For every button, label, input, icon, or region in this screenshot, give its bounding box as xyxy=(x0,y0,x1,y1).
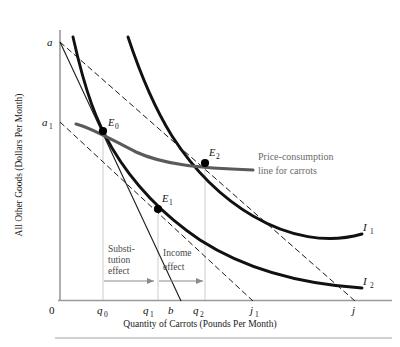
point-E0 xyxy=(99,127,107,135)
svg-text:a: a xyxy=(47,36,53,48)
svg-text:2: 2 xyxy=(216,152,220,161)
svg-text:Income: Income xyxy=(163,248,192,258)
svg-text:1: 1 xyxy=(49,122,53,131)
svg-text:0: 0 xyxy=(49,304,55,316)
svg-text:q: q xyxy=(97,304,103,316)
svg-text:q: q xyxy=(193,304,199,316)
svg-text:0: 0 xyxy=(104,310,108,319)
chart-canvas: E 0 E 1 E 2 I 1 I 2 a a 1 0 q 0 q 1 b q … xyxy=(0,0,400,347)
y-tick-a: a xyxy=(47,36,53,48)
indifference-curve-figure: E 0 E 1 E 2 I 1 I 2 a a 1 0 q 0 q 1 b q … xyxy=(0,0,400,347)
point-E2 xyxy=(201,159,209,167)
svg-text:effect: effect xyxy=(108,266,130,276)
svg-text:2: 2 xyxy=(370,281,374,290)
svg-text:1: 1 xyxy=(255,310,259,319)
x-axis-title: Quantity of Carrots (Pounds Per Month) xyxy=(123,319,276,330)
svg-text:2: 2 xyxy=(200,310,204,319)
svg-text:1: 1 xyxy=(169,198,173,207)
svg-text:0: 0 xyxy=(115,122,119,131)
svg-text:E: E xyxy=(208,147,216,158)
svg-text:Price-consumption: Price-consumption xyxy=(258,151,334,162)
y-tick-origin: 0 xyxy=(49,304,55,316)
svg-text:q: q xyxy=(143,304,149,316)
svg-text:a: a xyxy=(42,116,48,128)
svg-text:tution: tution xyxy=(108,255,130,265)
y-axis-title: All Other Goods (Dollars Per Month) xyxy=(14,94,25,237)
x-tick-b: b xyxy=(168,304,174,316)
svg-text:1: 1 xyxy=(370,227,374,236)
svg-text:line for carrots: line for carrots xyxy=(258,165,317,176)
point-E1 xyxy=(154,205,162,213)
svg-text:Substi-: Substi- xyxy=(108,244,135,254)
svg-text:effect: effect xyxy=(163,262,185,272)
svg-text:b: b xyxy=(168,304,174,316)
svg-text:1: 1 xyxy=(150,310,154,319)
svg-text:E: E xyxy=(161,193,169,204)
svg-text:E: E xyxy=(107,117,115,128)
